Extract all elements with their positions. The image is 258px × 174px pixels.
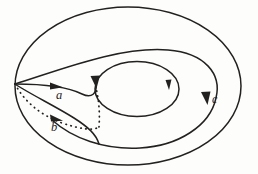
curve-label-b: b: [51, 121, 57, 134]
inner-hole-curve: [95, 62, 179, 117]
curve-label-c: c: [212, 93, 217, 105]
diagram-canvas: [0, 0, 258, 174]
torus-diagram-figure: a b c: [0, 0, 258, 174]
loop-c-secondary-arrowhead: [166, 80, 172, 91]
curve-label-a: a: [56, 89, 62, 102]
loop-b-hidden-link-curve: [96, 88, 99, 127]
loop-c-arrowhead: [201, 92, 211, 106]
